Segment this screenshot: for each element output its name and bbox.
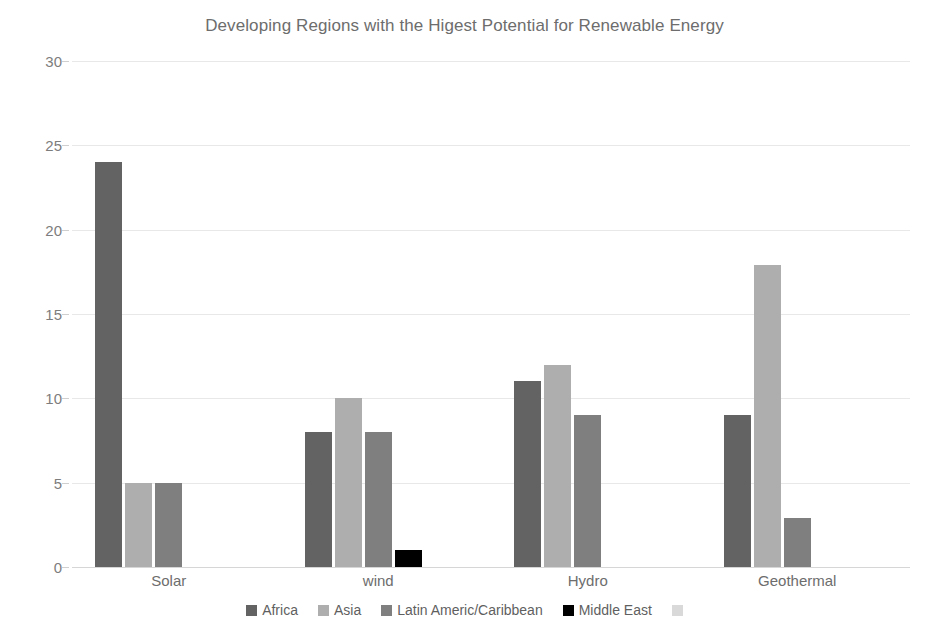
y-tick-mark-5 [62,483,69,484]
x-axis: SolarwindHydroGeothermal [72,570,910,596]
y-tick-label-25: 25 [12,137,62,154]
y-tick-label-15: 15 [12,306,62,323]
gridline-0 [72,567,910,568]
legend-entry-africa[interactable]: Africa [246,602,298,618]
y-axis: 051015202530 [0,61,62,567]
bar-solar-africa[interactable] [95,162,122,567]
bar-hydro-latin-americ-caribbean[interactable] [574,415,601,567]
y-tick-label-20: 20 [12,221,62,238]
bar-wind-asia[interactable] [335,398,362,567]
bar-wind-latin-americ-caribbean[interactable] [365,432,392,567]
y-tick-mark-25 [62,145,69,146]
bar-geothermal-africa[interactable] [724,415,751,567]
legend-swatch-asia [318,605,329,616]
bar-group-wind [282,61,492,567]
chart-title: Developing Regions with the Higest Poten… [0,16,929,36]
x-tick-label-hydro: Hydro [568,572,608,589]
chart-container: Developing Regions with the Higest Poten… [0,0,929,640]
legend-entry-asia[interactable]: Asia [318,602,361,618]
bar-hydro-africa[interactable] [514,381,541,567]
bar-solar-asia[interactable] [125,483,152,567]
y-tick-label-30: 30 [12,53,62,70]
bar-group-solar [72,61,282,567]
legend-label-asia: Asia [334,602,361,618]
legend-entry-latin-americ-caribbean[interactable]: Latin Americ/Caribbean [381,602,543,618]
bar-group-hydro [491,61,701,567]
plot-area [72,61,910,567]
y-tick-mark-0 [62,567,69,568]
y-tick-label-10: 10 [12,390,62,407]
bar-wind-middle-east[interactable] [395,550,422,567]
y-tick-mark-30 [62,61,69,62]
bar-group-geothermal [701,61,911,567]
bar-solar-latin-americ-caribbean[interactable] [155,483,182,567]
x-tick-label-geothermal: Geothermal [758,572,836,589]
legend-swatch-latin-americ-caribbean [381,605,392,616]
y-tick-mark-15 [62,314,69,315]
legend-swatch-africa [246,605,257,616]
legend-swatch-middle-east [563,605,574,616]
bar-geothermal-latin-americ-caribbean[interactable] [784,518,811,567]
legend-entry-series-4[interactable] [672,605,683,616]
x-tick-label-solar: Solar [151,572,186,589]
y-tick-mark-10 [62,398,69,399]
y-tick-mark-20 [62,230,69,231]
bar-wind-africa[interactable] [305,432,332,567]
y-tick-label-5: 5 [12,474,62,491]
legend-swatch-series-4 [672,605,683,616]
bar-hydro-asia[interactable] [544,365,571,567]
bar-geothermal-asia[interactable] [754,265,781,567]
chart-legend: AfricaAsiaLatin Americ/CaribbeanMiddle E… [0,602,929,618]
legend-label-africa: Africa [262,602,298,618]
x-tick-label-wind: wind [363,572,394,589]
legend-entry-middle-east[interactable]: Middle East [563,602,652,618]
legend-label-latin-americ-caribbean: Latin Americ/Caribbean [397,602,543,618]
legend-label-middle-east: Middle East [579,602,652,618]
y-tick-label-0: 0 [12,559,62,576]
